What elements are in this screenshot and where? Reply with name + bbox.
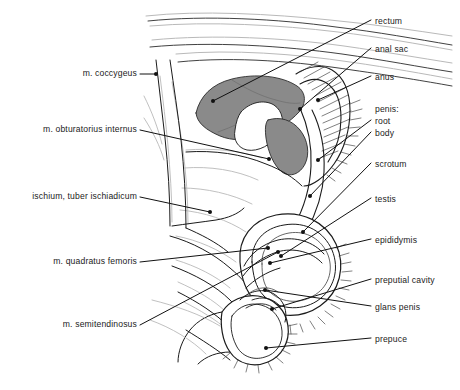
label-m-coccygeus: m. coccygeus bbox=[0, 68, 137, 79]
label-glans-penis: glans penis bbox=[375, 302, 420, 313]
label-preputial-cavity: preputial cavity bbox=[375, 275, 435, 286]
anal-region-hatching bbox=[300, 62, 351, 158]
label-penis-root: root bbox=[375, 116, 390, 127]
label-prepuce: prepuce bbox=[375, 334, 407, 345]
prepuce-outline bbox=[221, 296, 288, 365]
label-penis-heading: penis: bbox=[375, 104, 399, 115]
label-m-obturatorius-internus: m. obturatorius internus bbox=[0, 124, 137, 135]
label-m-semitendinosus: m. semitendinosus bbox=[0, 319, 137, 330]
anatomy-figure: m. coccygeus m. obturatorius internus is… bbox=[0, 0, 460, 390]
label-anal-sac: anal sac bbox=[375, 44, 408, 55]
label-m-quadratus-femoris: m. quadratus femoris bbox=[0, 256, 137, 267]
label-ischium-tuber-ischiadicum: ischium, tuber ischiadicum bbox=[0, 191, 137, 202]
label-epididymis: epididymis bbox=[375, 235, 417, 246]
anus-outline bbox=[296, 67, 350, 186]
label-testis: testis bbox=[375, 194, 396, 205]
label-anus: anus bbox=[375, 72, 394, 83]
label-scrotum: scrotum bbox=[375, 159, 407, 170]
label-rectum: rectum bbox=[375, 16, 402, 27]
abdominal-floor bbox=[150, 300, 220, 354]
label-penis-body: body bbox=[375, 128, 394, 139]
